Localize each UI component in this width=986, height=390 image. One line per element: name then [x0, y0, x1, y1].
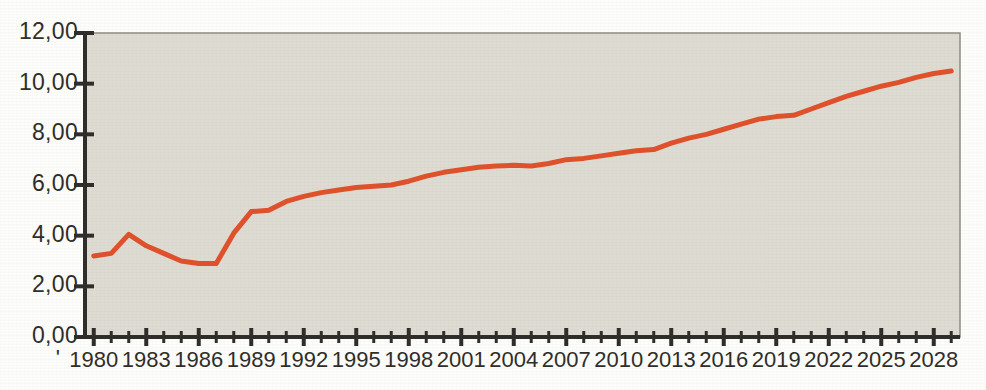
x-tick-label-1986: 1986	[174, 347, 223, 373]
x-tick-label-2022: 2022	[804, 347, 853, 373]
line-chart-figure: 0,002,004,006,008,0010,0012,00 198019831…	[0, 0, 986, 390]
x-tick-label-2025: 2025	[857, 347, 906, 373]
x-tick-label-1983: 1983	[122, 347, 171, 373]
x-tick-label-2010: 2010	[594, 347, 643, 373]
x-tick-label-2007: 2007	[542, 347, 591, 373]
x-tick-label-1995: 1995	[332, 347, 381, 373]
x-tick-label-2028: 2028	[909, 347, 958, 373]
x-tick-label-2019: 2019	[752, 347, 801, 373]
x-tick-label-2016: 2016	[699, 347, 748, 373]
x-tick-label-2013: 2013	[647, 347, 696, 373]
x-tick-label-1992: 1992	[279, 347, 328, 373]
x-tick-label-2004: 2004	[489, 347, 538, 373]
x-tick-label-1989: 1989	[227, 347, 276, 373]
x-axis-labels: 1980198319861989199219951998200120042007…	[0, 0, 986, 390]
x-tick-label-1998: 1998	[384, 347, 433, 373]
x-tick-label-1980: 1980	[69, 347, 118, 373]
x-axis-leading-mark: '	[56, 345, 60, 371]
x-tick-label-2001: 2001	[437, 347, 486, 373]
